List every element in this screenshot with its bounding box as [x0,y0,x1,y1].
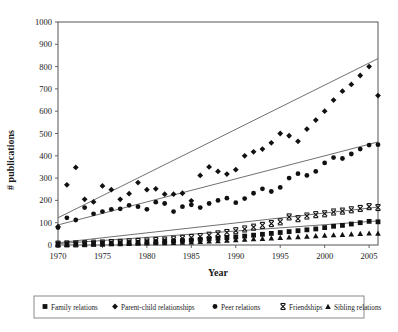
data-point [251,149,257,155]
data-point [109,207,114,212]
series-sibling-relations [55,230,381,247]
data-point [358,205,363,211]
legend-label: Friendships [289,304,323,312]
data-point [376,219,381,224]
data-point [278,219,283,225]
data-point [313,227,318,232]
data-point [313,117,319,123]
data-point [224,171,230,177]
data-point [367,143,372,148]
data-point [82,196,88,202]
legend-item-sibling-relations[interactable]: Sibling relations [325,304,381,312]
chart-figure: 01002003004005006007008009001000 1970197… [0,0,398,332]
data-point [251,191,256,196]
data-point [126,191,132,197]
data-point [366,230,372,235]
legend-marker-icon [213,304,218,309]
chart-legend: Family relationsParent-child relationshi… [34,296,382,318]
x-tick-label: 1975 [94,251,111,261]
trend-line-parent-child-relationships [58,59,378,218]
data-point [358,147,363,152]
x-tick-label: 2005 [361,251,378,261]
data-point [100,209,105,214]
legend-label: Sibling relations [334,304,382,312]
legend-item-parent-child-relationships[interactable]: Parent-child relationships [112,304,195,312]
data-point [313,212,318,218]
data-point [322,161,327,166]
data-point [278,185,283,190]
data-point [340,223,345,228]
data-point [171,209,176,214]
data-point [286,234,292,239]
data-point [340,232,346,237]
data-point [224,196,229,201]
data-point [376,142,381,147]
data-point [295,234,301,239]
data-point [206,164,212,170]
data-point [269,221,274,227]
data-point [331,155,336,160]
data-point [366,64,372,70]
data-point [118,206,123,211]
data-point [367,204,372,210]
data-point [233,167,239,173]
data-point [349,152,354,157]
data-point [304,234,310,239]
data-point [162,191,168,197]
y-tick-label: 500 [39,129,52,139]
data-point [153,186,159,192]
data-point [215,169,221,175]
legend-item-family-relations[interactable]: Family relations [43,304,99,312]
data-point [349,231,355,236]
x-axis-ticks: 19701975198019851990199520002005 [50,245,378,261]
data-point [331,232,337,237]
x-tick-label: 1985 [183,251,200,261]
data-point [322,211,327,217]
x-tick-label: 2000 [316,251,333,261]
data-point [296,216,301,222]
data-point [144,187,150,193]
data-point [73,164,79,170]
data-point [340,88,346,94]
data-point [242,153,248,159]
y-tick-label: 0 [48,240,52,250]
data-point [357,231,363,236]
data-point [304,213,309,219]
data-point [73,218,78,223]
data-point [322,225,327,230]
legend-label: Peer relations [221,304,261,312]
data-points [55,64,381,247]
data-point [296,171,301,176]
y-tick-label: 600 [39,106,52,116]
series-parent-child-relationships [55,64,381,230]
data-point [277,235,283,240]
data-point [296,228,301,233]
data-point [144,207,149,212]
data-point [162,201,167,206]
data-point [331,97,337,103]
data-point [242,226,247,232]
legend-label: Parent-child relationships [121,304,195,312]
data-point [153,200,158,205]
data-point [91,211,96,216]
data-point [375,93,381,99]
data-point [91,199,97,205]
data-point [313,233,319,238]
data-point [304,173,309,178]
data-point [277,131,283,137]
data-point [171,191,177,197]
data-point [180,204,185,209]
data-point [224,230,229,236]
data-point [286,133,292,139]
x-tick-label: 1995 [272,251,289,261]
data-point [269,235,275,240]
y-tick-label: 800 [39,62,52,72]
y-tick-label: 1000 [35,17,52,27]
legend-label: Family relations [51,304,98,312]
trend-lines [58,59,378,244]
data-point [108,187,114,193]
y-axis-ticks: 01002003004005006007008009001000 [35,17,58,250]
y-tick-label: 400 [39,151,52,161]
data-point [375,231,381,236]
data-point [216,198,221,203]
